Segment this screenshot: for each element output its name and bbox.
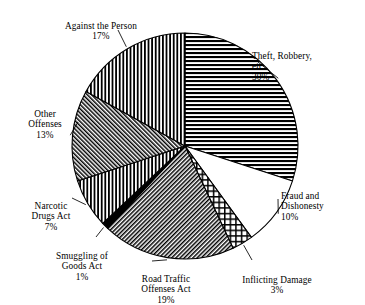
- slice-label-against-the-person: Against the Person 17%: [32, 10, 170, 42]
- slice-label-fraud: Fraud and Dishonesty 10%: [281, 180, 365, 222]
- slice-label-text: Theft, Robbery, etc. 30%: [252, 51, 312, 82]
- slice-label-narcotic-drugs: Narcotic Drugs Act 7%: [8, 190, 94, 232]
- pie-chart: Against the Person 17% Theft, Robbery, e…: [0, 0, 365, 305]
- slice-label-text: Other Offenses 13%: [28, 109, 62, 140]
- slice-label-other-offenses: Other Offenses 13%: [6, 98, 84, 140]
- slice-label-text: Smuggling of Goods Act 1%: [56, 251, 108, 282]
- slice-label-inflicting-damage: Inflicting Damage 3%: [222, 264, 332, 296]
- slice-label-text: Inflicting Damage 3%: [242, 275, 312, 296]
- slice-label-text: Road Traffic Offenses Act 19%: [141, 274, 190, 305]
- slice-label-text: Narcotic Drugs Act 7%: [32, 201, 71, 232]
- slice-label-road-traffic: Road Traffic Offenses Act 19%: [116, 263, 216, 305]
- slice-label-text: Fraud and Dishonesty 10%: [281, 191, 324, 222]
- leader-line-road-traffic: [152, 260, 167, 261]
- leader-line-inflicting-damage: [244, 245, 252, 260]
- slice-label-theft: Theft, Robbery, etc. 30%: [252, 40, 360, 82]
- leader-line-smuggling: [96, 228, 104, 238]
- slice-label-text: Against the Person 17%: [65, 21, 137, 42]
- slice-label-smuggling: Smuggling of Goods Act 1%: [36, 240, 128, 282]
